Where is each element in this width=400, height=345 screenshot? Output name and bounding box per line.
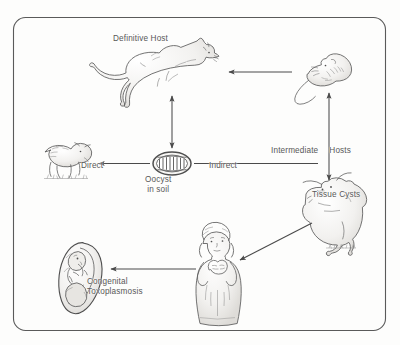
label-intermediate-hosts-word1: Intermediate xyxy=(271,146,318,155)
diagram-canvas xyxy=(0,0,400,345)
label-congenital-toxoplasmosis: Congenital Toxoplasmosis xyxy=(87,277,143,296)
toxoplasmosis-lifecycle-diagram: Definitive Host Direct Indirect Oocyst i… xyxy=(0,0,400,345)
oocyst-figure xyxy=(153,152,191,175)
label-definitive-host: Definitive Host xyxy=(113,34,168,44)
label-intermediate-hosts: Intermediate Hosts xyxy=(271,146,351,156)
label-indirect: Indirect xyxy=(209,161,237,171)
label-oocyst-in-soil: Oocyst in soil xyxy=(145,175,171,194)
label-tissue-cysts: Tissue Cysts xyxy=(312,190,360,200)
label-direct: Direct xyxy=(81,161,103,171)
label-intermediate-hosts-word2: Hosts xyxy=(329,146,351,155)
